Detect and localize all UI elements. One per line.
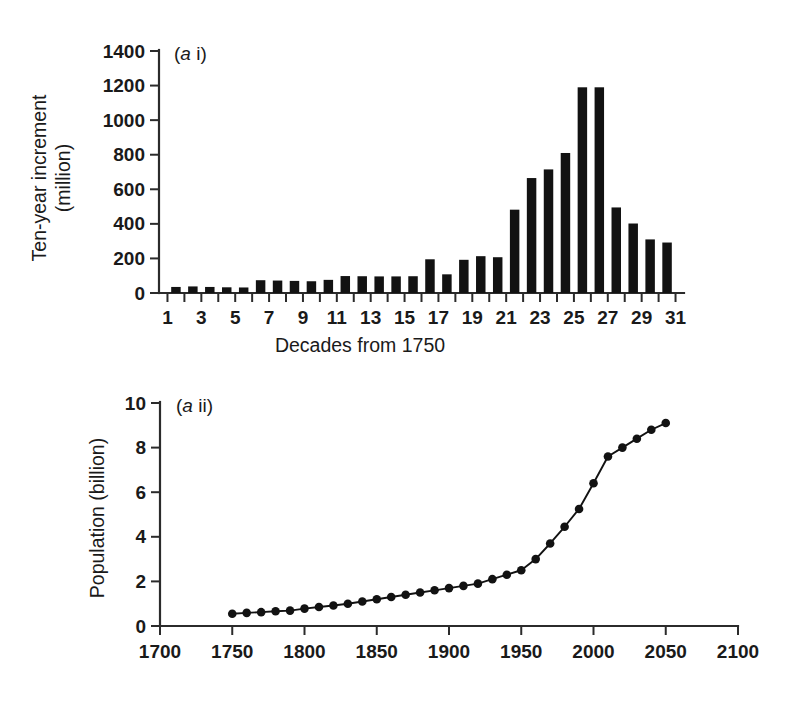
bar-decade-19 — [459, 260, 468, 293]
data-point-1850 — [372, 595, 381, 604]
bar-decade-23 — [527, 178, 536, 293]
bar-decade-16 — [408, 276, 417, 293]
panel-a-i-ylabel-line1: Ten-year increment — [28, 94, 50, 261]
panel-a-i-x-tick-label: 17 — [428, 307, 449, 328]
bar-decade-25 — [561, 153, 570, 293]
panel-a-ii: Population (billion) (a ii) 0246810 1700… — [86, 393, 759, 663]
panel-a-i-x-tick-label: 31 — [665, 307, 687, 328]
panel-a-ii-x-tick-label: 2100 — [717, 641, 759, 662]
panel-a-i-y-tick-label: 1400 — [103, 41, 145, 62]
bar-decade-24 — [544, 169, 553, 293]
bar-decade-26 — [578, 87, 587, 293]
panel-a-i-x-tick-label: 9 — [298, 307, 309, 328]
panel-a-i-ylabel-line2: (million) — [52, 144, 74, 212]
bar-decade-2 — [171, 287, 180, 293]
bar-decade-21 — [493, 257, 502, 293]
bar-decade-6 — [239, 287, 248, 293]
data-point-1830 — [344, 599, 353, 608]
panel-a-i-bars — [171, 87, 672, 293]
data-point-2030 — [633, 434, 642, 443]
bar-decade-18 — [442, 274, 451, 293]
bar-decade-28 — [612, 207, 621, 293]
bar-decade-7 — [256, 280, 265, 293]
bar-decade-14 — [374, 276, 383, 293]
panel-a-ii-label: (a ii) — [176, 395, 213, 416]
panel-a-ii-x-tick-label: 1850 — [356, 641, 398, 662]
data-point-1820 — [329, 601, 338, 610]
bar-decade-10 — [307, 281, 316, 293]
data-point-1920 — [474, 579, 483, 588]
bar-decade-11 — [324, 280, 333, 293]
panel-a-i: Ten-year increment (million) (a i) 02004… — [28, 41, 687, 357]
panel-a-i-x-tick-label: 7 — [264, 307, 275, 328]
panel-a-ii-y-tick-label: 0 — [135, 616, 146, 637]
bar-decade-3 — [188, 286, 197, 293]
panel-a-i-y-ticks: 0200400600800100012001400 — [103, 41, 159, 304]
data-point-1860 — [387, 593, 396, 602]
data-point-2010 — [604, 452, 613, 461]
panel-a-i-label: (a i) — [174, 43, 207, 64]
panel-a-i-x-tick-label: 23 — [529, 307, 550, 328]
panel-a-i-x-tick-label: 25 — [563, 307, 585, 328]
panel-a-i-y-tick-label: 400 — [113, 213, 145, 234]
data-point-2000 — [589, 479, 598, 488]
panel-a-ii-x-tick-label: 1800 — [283, 641, 325, 662]
data-point-1880 — [416, 588, 425, 597]
panel-a-i-x-tick-label: 29 — [631, 307, 652, 328]
panel-a-ii-y-tick-label: 4 — [135, 526, 146, 547]
panel-a-ii-x-tick-label: 1750 — [211, 641, 253, 662]
data-point-2020 — [618, 443, 627, 452]
data-point-1930 — [488, 575, 497, 584]
panel-a-ii-y-ticks: 0246810 — [125, 393, 160, 637]
figure-container: Ten-year increment (million) (a i) 02004… — [0, 0, 790, 715]
data-point-1960 — [531, 555, 540, 564]
data-point-1800 — [300, 604, 309, 613]
panel-a-ii-x-tick-label: 1900 — [428, 641, 470, 662]
bar-decade-15 — [391, 276, 400, 293]
panel-a-ii-y-tick-label: 8 — [135, 437, 146, 458]
bar-decade-20 — [476, 256, 485, 293]
panel-a-i-y-tick-label: 800 — [113, 144, 145, 165]
panel-a-i-x-tick-label: 1 — [162, 307, 173, 328]
bar-decade-27 — [595, 87, 604, 293]
data-point-2040 — [647, 425, 656, 434]
panel-a-ii-data-points — [228, 419, 670, 618]
panel-a-i-x-tick-label: 13 — [360, 307, 381, 328]
bar-decade-31 — [662, 243, 671, 293]
panel-a-i-x-tick-label: 11 — [327, 307, 348, 328]
bar-decade-30 — [645, 239, 654, 293]
data-point-1840 — [358, 597, 367, 606]
bar-decade-9 — [290, 281, 299, 293]
bar-decade-12 — [341, 276, 350, 293]
data-point-1910 — [459, 582, 468, 591]
bar-decade-4 — [205, 287, 214, 293]
panel-a-ii-x-tick-label: 1700 — [139, 641, 181, 662]
bar-decade-22 — [510, 210, 519, 293]
panel-a-ii-y-tick-label: 6 — [135, 482, 146, 503]
panel-a-i-x-tick-label: 15 — [394, 307, 416, 328]
data-point-1980 — [560, 522, 569, 531]
panel-a-ii-x-tick-label: 2000 — [572, 641, 614, 662]
panel-a-i-y-tick-label: 600 — [113, 179, 145, 200]
data-point-1870 — [401, 590, 410, 599]
data-point-1990 — [575, 505, 584, 514]
bar-decade-13 — [357, 276, 366, 293]
data-point-1780 — [271, 607, 280, 616]
panel-a-i-y-tick-label: 200 — [113, 248, 145, 269]
panel-a-i-y-tick-label: 1200 — [103, 75, 145, 96]
panel-a-ii-ylabel: Population (billion) — [86, 438, 108, 598]
panel-a-i-x-tick-label: 21 — [496, 307, 518, 328]
data-point-1810 — [315, 603, 324, 612]
panel-a-i-ylabel: Ten-year increment (million) — [28, 94, 74, 261]
panel-a-i-x-tick-label: 5 — [230, 307, 241, 328]
panel-a-i-y-tick-label: 1000 — [103, 110, 145, 131]
panel-a-i-x-tick-label: 3 — [196, 307, 207, 328]
panel-a-ii-x-tick-label: 2050 — [645, 641, 687, 662]
bar-decade-5 — [222, 287, 231, 293]
data-point-1940 — [503, 570, 512, 579]
panel-a-i-x-ticks: 135791113151719212325272931 — [162, 293, 686, 328]
population-figure: Ten-year increment (million) (a i) 02004… — [0, 0, 790, 715]
bar-decade-29 — [628, 224, 637, 293]
panel-a-ii-x-tick-label: 1950 — [500, 641, 542, 662]
data-point-1950 — [517, 566, 526, 575]
